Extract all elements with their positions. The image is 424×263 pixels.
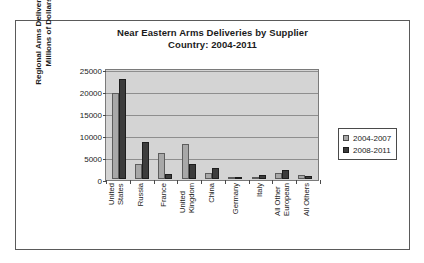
bar: [275, 173, 282, 179]
bar: [165, 174, 172, 179]
x-axis-category-label-line-2: Kingdom: [188, 183, 197, 213]
y-axis-tick-mark: [103, 159, 106, 160]
x-axis-tick-mark: [320, 180, 321, 184]
x-axis-category-label: UnitedStates: [108, 183, 125, 205]
x-axis-category-label-line-2: States: [117, 183, 126, 205]
chart-title-line-2: Country: 2004-2011: [16, 39, 409, 51]
y-axis-title-line-1: Regional Arms Deliveries in: [34, 0, 43, 85]
bar: [112, 93, 119, 179]
bar: [235, 177, 242, 179]
x-axis-category-label-line-1: Italy: [254, 183, 263, 197]
legend-swatch-icon: [343, 135, 349, 141]
legend-item: 2004-2007: [343, 132, 391, 144]
bar-group: [247, 71, 270, 179]
x-axis-label-cell: China: [200, 183, 224, 245]
bar-group: [200, 71, 223, 179]
bar: [259, 175, 266, 179]
y-axis-tick-mark: [103, 93, 106, 94]
x-axis-category-label: Germany: [232, 183, 241, 214]
x-axis-category-label-line-1: All Others: [302, 183, 311, 216]
chart-title: Near Eastern Arms Deliveries by Supplier…: [16, 27, 409, 50]
chart-figure-frame: Near Eastern Arms Deliveries by Supplier…: [15, 20, 410, 250]
x-axis-category-label-line-1: France: [159, 183, 168, 207]
y-axis-tick-label: 10000: [80, 133, 102, 142]
legend-label: 2004-2007: [353, 134, 391, 143]
x-axis-category-label-line-1: United: [179, 191, 188, 213]
x-axis-category-label-line-1: Germany: [231, 183, 240, 214]
y-axis-tick-label: 0: [98, 177, 102, 186]
bar: [282, 170, 289, 179]
y-axis-tick-mark: [103, 137, 106, 138]
y-axis-title: Regional Arms Deliveries in Millions of …: [34, 0, 60, 87]
bar: [182, 144, 189, 179]
y-axis-tick-label: 25000: [80, 67, 102, 76]
x-axis-category-labels: UnitedStatesRussiaFranceUnitedKingdomChi…: [105, 183, 319, 245]
legend-swatch-icon: [343, 147, 349, 153]
x-axis-label-cell: Russia: [129, 183, 153, 245]
x-axis-label-cell: UnitedStates: [105, 183, 129, 245]
y-axis-tick-mark: [103, 71, 106, 72]
x-axis-category-label: All OtherEuropean: [275, 183, 292, 216]
x-axis-category-label: UnitedKingdom: [180, 183, 197, 213]
bar-group: [177, 71, 200, 179]
x-axis-category-label-line-1: China: [207, 183, 216, 203]
x-axis-category-label: Italy: [255, 183, 264, 197]
chart-title-line-1: Near Eastern Arms Deliveries by Supplier: [117, 27, 308, 38]
bar: [228, 177, 235, 179]
x-axis-label-cell: France: [153, 183, 177, 245]
y-axis-title-line-2: Millions of Dollars: [44, 0, 54, 87]
bar-group: [294, 71, 317, 179]
x-axis-label-cell: Italy: [248, 183, 272, 245]
bar: [135, 164, 142, 179]
bar-group: [224, 71, 247, 179]
x-axis-category-label: Russia: [136, 183, 145, 206]
x-axis-category-label-line-1: All Other: [274, 186, 283, 216]
x-axis-category-label: France: [160, 183, 169, 207]
x-axis-category-label: All Others: [303, 183, 312, 216]
bar: [189, 164, 196, 179]
y-axis-tick-mark: [103, 115, 106, 116]
bar-group: [270, 71, 293, 179]
bar: [305, 176, 312, 179]
x-axis-category-label-line-1: United: [107, 183, 116, 205]
x-axis-category-label-line-2: European: [283, 183, 292, 216]
bar-group: [154, 71, 177, 179]
bar-group: [130, 71, 153, 179]
bar: [252, 177, 259, 179]
x-axis-category-label: China: [208, 183, 217, 203]
y-axis-tick-label: 5000: [84, 155, 102, 164]
bar-group: [107, 71, 130, 179]
bar: [205, 173, 212, 179]
bar: [212, 168, 219, 179]
x-axis-label-cell: All OtherEuropean: [271, 183, 295, 245]
x-axis-category-label-line-1: Russia: [135, 183, 144, 206]
legend-label: 2008-2011: [353, 146, 391, 155]
y-axis-tick-label: 20000: [80, 89, 102, 98]
plot-wrap: 0500010000150002000025000: [105, 69, 319, 181]
y-axis-tick-label: 15000: [80, 111, 102, 120]
bar-series-container: [107, 71, 317, 179]
chart-legend: 2004-20072008-2011: [338, 128, 397, 160]
bar: [158, 153, 165, 179]
x-axis-label-cell: UnitedKingdom: [176, 183, 200, 245]
x-axis-label-cell: Germany: [224, 183, 248, 245]
legend-item: 2008-2011: [343, 144, 391, 156]
plot-area: 0500010000150002000025000: [105, 69, 319, 181]
bar: [298, 175, 305, 179]
bar: [119, 79, 126, 179]
bar: [142, 142, 149, 179]
x-axis-label-cell: All Others: [295, 183, 319, 245]
